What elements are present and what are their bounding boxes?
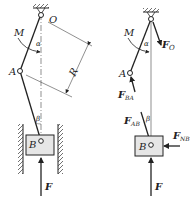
label-beta-right: β xyxy=(145,115,150,123)
label-beta: β xyxy=(35,115,40,123)
label-F-right: F xyxy=(154,181,163,192)
label-F: F xyxy=(44,181,53,192)
label-FAB: FAB xyxy=(123,115,140,127)
label-alpha: α xyxy=(36,40,41,48)
pin-O-right xyxy=(149,17,154,22)
force-FBA-arrow xyxy=(131,77,135,92)
label-alpha-right: α xyxy=(144,40,149,48)
label-B: B xyxy=(28,139,36,150)
label-A: A xyxy=(8,66,16,77)
force-FO-arrow xyxy=(153,22,161,45)
left-mechanism: O M α A R β B F xyxy=(8,4,92,196)
pin-O xyxy=(39,13,44,18)
pin-A xyxy=(18,69,23,74)
label-O: O xyxy=(49,14,57,25)
label-M: M xyxy=(13,27,25,38)
label-FO: FO xyxy=(161,39,175,52)
pin-B-right xyxy=(149,143,154,148)
label-FBA: FBA xyxy=(117,89,135,101)
label-B-right: B xyxy=(138,141,146,152)
pin-A-right xyxy=(128,71,133,76)
diagram-canvas: O M α A R β B F xyxy=(0,0,195,208)
right-free-body: M α A FO FBA FAB β FNB B F xyxy=(117,8,190,196)
pin-B xyxy=(39,139,44,144)
label-R: R xyxy=(66,66,80,79)
label-M-right: M xyxy=(123,27,135,38)
label-FNB: FNB xyxy=(172,130,190,142)
label-A-right: A xyxy=(118,68,126,79)
dimension-R xyxy=(26,22,92,97)
